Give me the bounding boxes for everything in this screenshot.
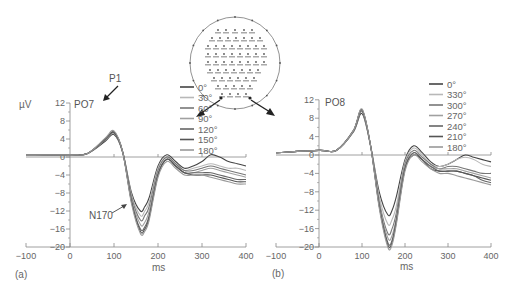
legend-label: 300° bbox=[447, 100, 467, 111]
channel-label-po8: PO8 bbox=[325, 97, 345, 108]
x-tick-label: 100 bbox=[354, 251, 369, 261]
x-tick-label: 400 bbox=[483, 251, 498, 261]
chart-panel-b: −100010020030040012840−4−8−12−16−200°330… bbox=[266, 79, 499, 262]
x-tick-label: 300 bbox=[194, 251, 209, 261]
legend-label: 30° bbox=[198, 92, 213, 103]
y-tick-label: −4 bbox=[55, 170, 65, 180]
y-tick-label: 4 bbox=[309, 132, 314, 142]
y-tick-label: 0 bbox=[309, 150, 314, 160]
legend-label: 270° bbox=[447, 110, 467, 121]
legend-label: 150° bbox=[198, 134, 218, 145]
legend-label: 330° bbox=[447, 89, 467, 100]
y-tick-label: −20 bbox=[50, 242, 65, 252]
y-tick-label: 4 bbox=[60, 134, 65, 144]
y-tick-label: −8 bbox=[55, 188, 65, 198]
y-tick-label: −16 bbox=[299, 224, 314, 234]
x-tick-label: 200 bbox=[397, 251, 412, 261]
n170-arrow bbox=[112, 206, 124, 213]
x-axis-label-b: ms bbox=[400, 261, 413, 272]
x-tick-label: 0 bbox=[67, 251, 72, 261]
x-tick-label: 0 bbox=[316, 251, 321, 261]
y-tick-label: −16 bbox=[50, 224, 65, 234]
y-tick-label: −12 bbox=[299, 205, 314, 215]
x-tick-label: 300 bbox=[440, 251, 455, 261]
p1-arrow bbox=[106, 86, 118, 98]
chart-panel-a: −100010020030040012840−4−8−12−16−200°30°… bbox=[16, 82, 254, 262]
y-tick-label: −20 bbox=[299, 242, 314, 252]
y-tick-label: 8 bbox=[60, 116, 65, 126]
y-tick-label: 12 bbox=[304, 95, 314, 105]
y-tick-label: −8 bbox=[304, 187, 314, 197]
y-tick-label: 0 bbox=[60, 152, 65, 162]
x-tick-label: 200 bbox=[150, 251, 165, 261]
y-tick-label: 12 bbox=[55, 98, 65, 108]
p1-annotation: P1 bbox=[109, 73, 122, 84]
x-tick-label: 400 bbox=[238, 251, 253, 261]
legend-label: 180° bbox=[198, 145, 218, 156]
y-tick-label: 8 bbox=[309, 113, 314, 123]
x-axis-label-a: ms bbox=[152, 262, 165, 273]
legend-label: 90° bbox=[198, 113, 213, 124]
legend-label: 60° bbox=[198, 103, 213, 114]
y-tick-label: −12 bbox=[50, 206, 65, 216]
panel-label-a: (a) bbox=[15, 269, 27, 280]
y-tick-label: −4 bbox=[304, 168, 314, 178]
x-tick-label: 100 bbox=[106, 251, 121, 261]
x-tick-label: −100 bbox=[16, 251, 36, 261]
x-tick-label: −100 bbox=[266, 251, 286, 261]
legend-label: 240° bbox=[447, 121, 467, 132]
channel-label-po7: PO7 bbox=[74, 99, 94, 110]
arrow-to-po8 bbox=[251, 100, 270, 112]
legend-label: 180° bbox=[447, 142, 467, 153]
legend-label: 210° bbox=[447, 131, 467, 142]
legend-label: 0° bbox=[198, 82, 207, 93]
panel-label-b: (b) bbox=[272, 268, 284, 279]
legend-label: 120° bbox=[198, 124, 218, 135]
y-unit-label: µV bbox=[19, 99, 32, 110]
legend-label: 0° bbox=[447, 79, 456, 90]
figure: −100010020030040012840−4−8−12−16−200°30°… bbox=[0, 0, 517, 292]
n170-annotation: N170 bbox=[89, 210, 113, 221]
